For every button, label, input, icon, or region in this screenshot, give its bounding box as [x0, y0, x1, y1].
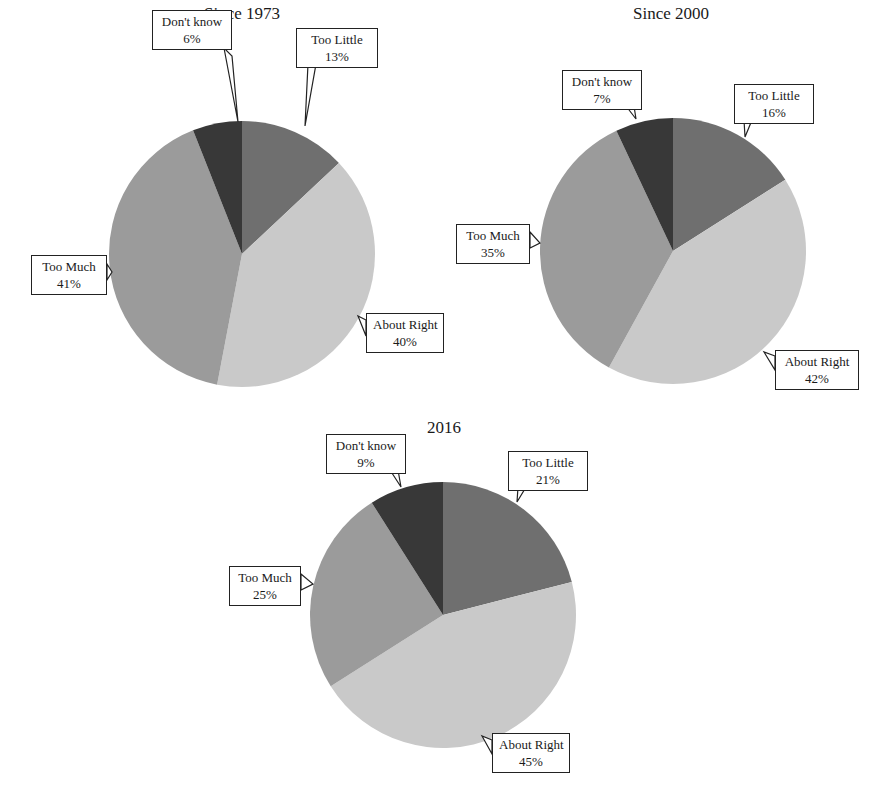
- callout-dont-know-2016: Don't know 9%: [326, 434, 406, 474]
- callout-pointer: [530, 232, 540, 248]
- callout-dont-know-1973: Don't know 6%: [152, 10, 232, 50]
- callout-label: Don't know: [569, 73, 635, 90]
- callout-pointer: [305, 64, 316, 126]
- pie-chart-figure: Since 1973 Don't know 6% Too Little 13% …: [0, 0, 889, 796]
- callout-value: 9%: [333, 454, 399, 471]
- callout-value: 7%: [569, 90, 635, 107]
- callout-too-little-1973: Too Little 13%: [296, 28, 378, 68]
- callout-value: 6%: [159, 30, 225, 47]
- callout-pointer: [764, 352, 775, 370]
- callout-too-little-2000: Too Little 16%: [734, 84, 814, 124]
- callout-label: Too Little: [515, 454, 581, 471]
- callout-label: About Right: [782, 353, 852, 370]
- chart-title-2000: Since 2000: [571, 4, 771, 24]
- callout-too-much-1973: Too Much 41%: [31, 255, 107, 295]
- callout-label: Too Much: [463, 227, 523, 244]
- callout-too-little-2016: Too Little 21%: [508, 451, 588, 491]
- callout-too-much-2000: Too Much 35%: [456, 224, 530, 264]
- callout-about-right-2000: About Right 42%: [775, 350, 859, 390]
- callout-value: 42%: [782, 370, 852, 387]
- callout-about-right-1973: About Right 40%: [366, 313, 444, 353]
- callout-pointer: [301, 574, 313, 590]
- callout-pointer: [358, 316, 366, 336]
- callout-value: 41%: [38, 275, 100, 292]
- callout-label: Too Much: [236, 569, 294, 586]
- callout-value: 35%: [463, 244, 523, 261]
- callout-value: 21%: [515, 471, 581, 488]
- callout-label: Too Little: [303, 31, 371, 48]
- callout-value: 45%: [499, 753, 563, 770]
- callout-value: 25%: [236, 586, 294, 603]
- callout-label: Don't know: [159, 13, 225, 30]
- callout-label: About Right: [373, 316, 437, 333]
- callout-value: 13%: [303, 48, 371, 65]
- callout-pointer: [224, 48, 238, 122]
- callout-label: Don't know: [333, 437, 399, 454]
- callout-about-right-2016: About Right 45%: [492, 733, 570, 773]
- callout-dont-know-2000: Don't know 7%: [562, 70, 642, 110]
- callout-label: Too Little: [741, 87, 807, 104]
- callout-label: Too Much: [38, 258, 100, 275]
- callout-value: 40%: [373, 333, 437, 350]
- callout-label: About Right: [499, 736, 563, 753]
- callout-value: 16%: [741, 104, 807, 121]
- callout-too-much-2016: Too Much 25%: [229, 566, 301, 606]
